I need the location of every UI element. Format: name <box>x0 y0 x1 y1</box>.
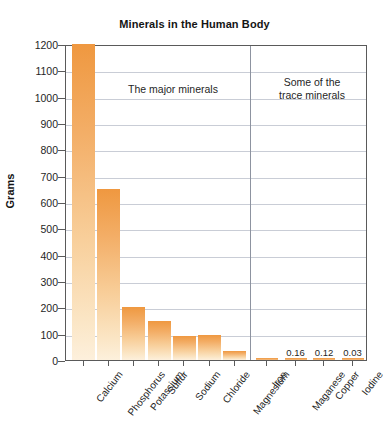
gridline <box>66 72 366 73</box>
y-axis-tick-mark <box>58 45 65 46</box>
y-axis-tick-label: 0 <box>18 355 58 367</box>
x-axis-tick-mark <box>209 361 210 366</box>
y-axis-tick-label: 1200 <box>18 39 58 51</box>
bar-iodine <box>342 358 364 360</box>
x-axis-tick-mark <box>352 361 353 366</box>
bar-maganese <box>285 358 307 360</box>
y-axis-tick-mark <box>58 308 65 309</box>
chart-title: Minerals in the Human Body <box>0 18 389 30</box>
gridline <box>66 178 366 179</box>
x-axis-tick-label-iodine: Iodine <box>359 369 384 397</box>
plot-area: The major minerals Some of the trace min… <box>65 45 367 361</box>
gridline <box>66 125 366 126</box>
minerals-bar-chart: Minerals in the Human Body Grams 0100200… <box>0 0 389 448</box>
y-axis-tick-mark <box>58 256 65 257</box>
value-label-iodine: 0.03 <box>343 347 362 358</box>
x-axis-tick-mark <box>133 361 134 366</box>
y-axis-tick-mark <box>58 98 65 99</box>
y-axis-tick-mark <box>58 177 65 178</box>
y-axis-tick-label: 800 <box>18 144 58 156</box>
y-axis-tick-label: 700 <box>18 171 58 183</box>
x-axis-tick-mark <box>266 361 267 366</box>
gridline <box>66 151 366 152</box>
y-axis-tick-mark <box>58 282 65 283</box>
x-axis-tick-label-sulfur: Sulfur <box>165 369 190 396</box>
x-axis-tick-mark <box>108 361 109 366</box>
bar-iron <box>256 358 278 360</box>
y-axis-tick-label: 600 <box>18 197 58 209</box>
x-axis-tick-mark <box>323 361 324 366</box>
y-axis-tick-label: 100 <box>18 329 58 341</box>
bar-sulfur <box>148 321 171 361</box>
y-axis-tick-label: 200 <box>18 302 58 314</box>
bar-copper <box>313 358 335 360</box>
x-axis-tick-label-sodium: Sodium <box>193 369 223 402</box>
x-axis-tick-mark <box>158 361 159 366</box>
annotation-major-minerals: The major minerals <box>88 83 258 96</box>
annotation-major-text: The major minerals <box>128 83 218 95</box>
bar-chloride <box>198 335 221 360</box>
y-axis-tick-mark <box>58 229 65 230</box>
y-axis-tick-label: 400 <box>18 250 58 262</box>
y-axis-tick-mark <box>58 203 65 204</box>
y-axis-tick-label: 500 <box>18 223 58 235</box>
y-axis-tick-label: 300 <box>18 276 58 288</box>
y-axis-tick-label: 1000 <box>18 92 58 104</box>
y-axis-tick-mark <box>58 124 65 125</box>
annotation-trace-minerals: Some of the trace minerals <box>258 76 366 102</box>
annotation-trace-line2: trace minerals <box>258 89 366 102</box>
y-axis-tick-mark <box>58 361 65 362</box>
y-axis-tick-label: 1100 <box>18 65 58 77</box>
x-axis-tick-mark <box>183 361 184 366</box>
bar-magnesium <box>223 351 246 360</box>
y-axis-tick-mark <box>58 335 65 336</box>
x-axis-tick-label-calcium: Calcium <box>93 369 124 404</box>
value-label-maganese: 0.16 <box>286 347 305 358</box>
annotation-trace-line1: Some of the <box>258 76 366 89</box>
bar-phosphorus <box>97 189 120 360</box>
x-axis-tick-mark <box>83 361 84 366</box>
x-axis-tick-mark <box>295 361 296 366</box>
bar-potassium <box>122 307 145 360</box>
y-axis-tick-mark <box>58 150 65 151</box>
y-axis-title: Grams <box>4 161 16 221</box>
value-label-copper: 0.12 <box>315 347 334 358</box>
bar-sodium <box>173 336 196 360</box>
y-axis-tick-mark <box>58 71 65 72</box>
x-axis-tick-mark <box>234 361 235 366</box>
x-axis-tick-label-chloride: Chloride <box>220 369 252 405</box>
y-axis-tick-label: 900 <box>18 118 58 130</box>
